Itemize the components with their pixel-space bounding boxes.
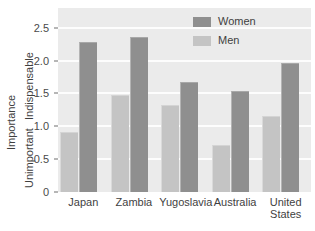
y-axis-tick-label: 1.5 (34, 88, 49, 99)
bar-men[interactable] (111, 95, 129, 192)
legend-item[interactable]: Women (193, 14, 256, 29)
legend-swatch-icon (193, 17, 211, 27)
legend-label: Women (218, 16, 256, 27)
bar-men[interactable] (262, 116, 280, 192)
bar-series-container (58, 8, 311, 192)
y-axis-tick-label: 0.5 (34, 154, 49, 165)
x-axis-category-line: Japan (58, 196, 109, 208)
y-axis-tick-label: 2.5 (34, 22, 49, 33)
legend-label: Men (218, 35, 239, 46)
y-axis-tick-label: 1.0 (34, 121, 49, 132)
x-axis-category-label: Yugoslavia (159, 196, 210, 208)
x-axis-category-label: Japan (58, 196, 109, 208)
y-axis-low-label: Unimportant (24, 128, 35, 188)
bar-women[interactable] (79, 42, 97, 192)
x-axis-category-line: Zambia (109, 196, 160, 208)
plot-area (58, 8, 311, 192)
x-axis-labels: JapanZambiaYugoslaviaAustraliaUnitedStat… (58, 196, 311, 230)
bar-women[interactable] (130, 37, 148, 192)
x-axis-category-line: United (260, 196, 311, 208)
bar-men[interactable] (212, 145, 230, 192)
bar-men[interactable] (161, 105, 179, 192)
bar-group (109, 8, 160, 192)
bar-women[interactable] (231, 91, 249, 192)
x-axis-category-line: States (260, 208, 311, 220)
x-axis-category-label: Australia (210, 196, 261, 208)
legend-item[interactable]: Men (193, 33, 256, 48)
y-axis-tick-label: 0 (43, 187, 49, 198)
x-axis-category-label: UnitedStates (260, 196, 311, 220)
y-axis-title: Importance (6, 95, 17, 150)
bar-group (260, 8, 311, 192)
x-axis-category-line: Yugoslavia (159, 196, 210, 208)
x-axis-category-label: Zambia (109, 196, 160, 208)
legend-swatch-icon (193, 36, 211, 46)
x-axis-category-line: Australia (210, 196, 261, 208)
bar-women[interactable] (180, 82, 198, 192)
legend: WomenMen (193, 14, 256, 52)
bar-men[interactable] (60, 132, 78, 192)
bar-women[interactable] (281, 63, 299, 192)
bar-group (58, 8, 109, 192)
y-axis-tick-label: 2.0 (34, 55, 49, 66)
y-axis-high-label: Indispensable (24, 52, 35, 120)
bar-chart-figure: 00.51.01.52.02.5 Importance Unimportant … (0, 0, 315, 231)
